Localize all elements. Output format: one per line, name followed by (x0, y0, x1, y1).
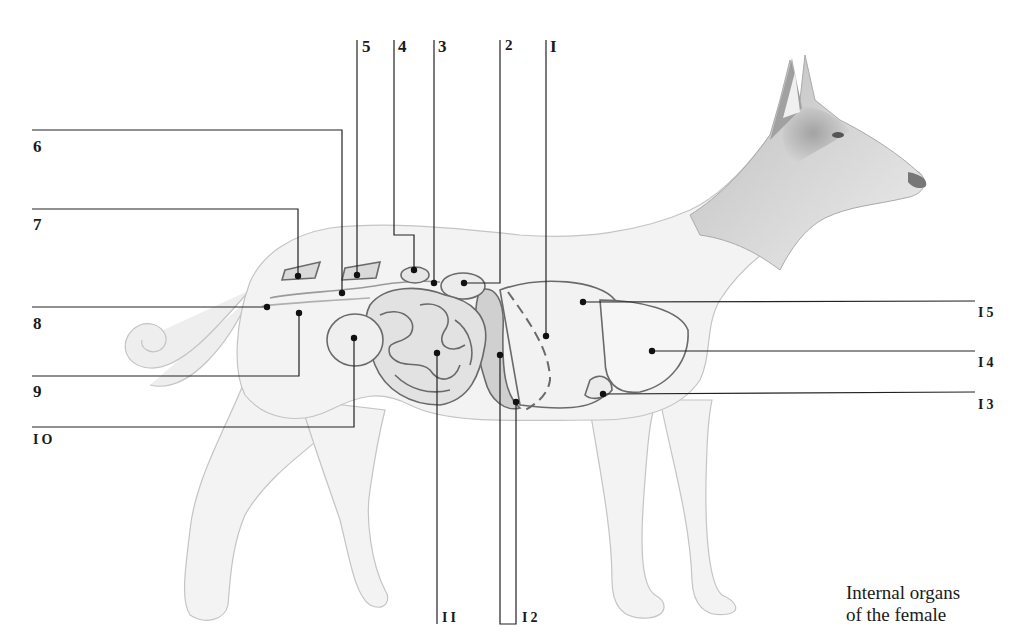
label-8: 8 (33, 315, 43, 332)
figure-caption: Internal organs of the female (846, 582, 960, 626)
caption-line-1: Internal organs (846, 582, 960, 604)
label-7: 7 (33, 216, 43, 233)
label-10: IO (33, 433, 55, 447)
label-2: 2 (505, 38, 514, 53)
label-14: I4 (978, 356, 996, 370)
label-1: I (550, 38, 558, 55)
label-9: 9 (33, 383, 43, 400)
label-11: II (442, 611, 459, 625)
dog-illustration (0, 0, 1034, 643)
dog-head (690, 55, 926, 270)
label-3: 3 (438, 38, 448, 55)
eye (832, 132, 844, 138)
label-13: I3 (978, 398, 996, 412)
anatomy-diagram: I 2 3 4 5 6 7 8 9 IO II I2 I3 I4 I5 Inte… (0, 0, 1034, 643)
label-15: I5 (978, 306, 996, 320)
label-5: 5 (362, 38, 372, 55)
label-6: 6 (33, 138, 43, 155)
label-4: 4 (398, 38, 408, 55)
label-12: I2 (522, 611, 540, 625)
caption-line-2: of the female (846, 604, 960, 626)
